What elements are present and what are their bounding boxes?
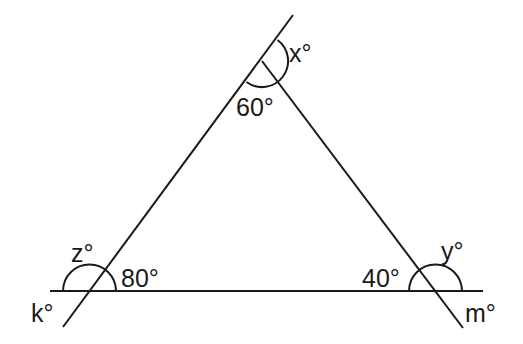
label-right-40: 40° <box>362 264 400 292</box>
right-angle-arc <box>409 265 462 291</box>
label-m: m° <box>465 299 496 327</box>
triangle-diagram: x° 60° z° 80° k° 40° y° m° <box>0 0 523 344</box>
label-z: z° <box>71 239 94 267</box>
label-left-80: 80° <box>121 264 159 292</box>
left-angle-arc <box>63 265 116 292</box>
label-k: k° <box>31 299 54 327</box>
apex-angle-arc <box>247 40 289 87</box>
label-apex-60: 60° <box>236 93 274 121</box>
label-x: x° <box>289 39 312 67</box>
label-y: y° <box>441 237 464 265</box>
left-side-line <box>63 15 293 327</box>
